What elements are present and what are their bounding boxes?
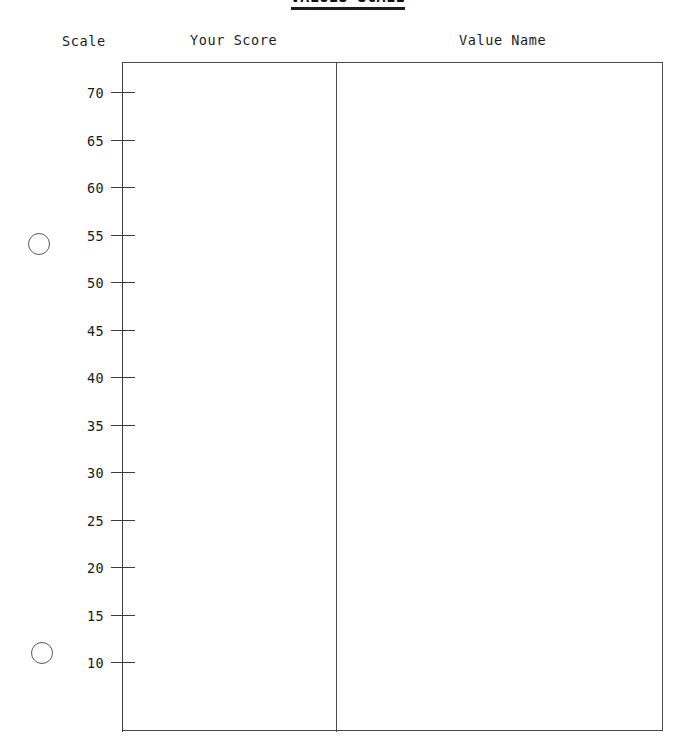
scale-tick-label-55: 55: [70, 228, 104, 244]
scale-tick-45: [111, 330, 135, 331]
scale-tick-25: [111, 520, 135, 521]
scale-tick-40: [111, 377, 135, 378]
document-title-container: VALUES SCALE: [0, 0, 696, 10]
scale-tick-label-15: 15: [70, 608, 104, 624]
value-name-entry-area[interactable]: [337, 63, 662, 730]
your-score-entry-area[interactable]: [123, 63, 335, 730]
scale-tick-label-60: 60: [70, 180, 104, 196]
scale-tick-55: [111, 235, 135, 236]
column-header-your-score: Your Score: [190, 32, 277, 48]
scale-tick-50: [111, 282, 135, 283]
page-title: VALUES SCALE: [291, 0, 405, 10]
scale-tick-10: [111, 662, 135, 663]
margin-circle-upper[interactable]: [28, 233, 50, 255]
scale-tick-70: [111, 92, 135, 93]
margin-circle-lower[interactable]: [31, 642, 53, 664]
scale-tick-35: [111, 425, 135, 426]
scale-tick-20: [111, 567, 135, 568]
scale-tick-label-25: 25: [70, 513, 104, 529]
worksheet-page: VALUES SCALE Scale Your Score Value Name…: [0, 0, 696, 752]
scale-tick-label-65: 65: [70, 133, 104, 149]
scale-tick-label-40: 40: [70, 370, 104, 386]
scale-tick-label-70: 70: [70, 85, 104, 101]
scale-tick-15: [111, 615, 135, 616]
scale-tick-30: [111, 472, 135, 473]
column-header-value-name: Value Name: [459, 32, 546, 48]
scale-tick-label-45: 45: [70, 323, 104, 339]
scale-tick-label-20: 20: [70, 560, 104, 576]
scale-tick-label-30: 30: [70, 465, 104, 481]
column-header-scale: Scale: [62, 33, 106, 49]
scale-tick-65: [111, 140, 135, 141]
scale-tick-60: [111, 187, 135, 188]
scale-tick-label-35: 35: [70, 418, 104, 434]
scale-tick-label-10: 10: [70, 655, 104, 671]
scale-tick-label-50: 50: [70, 275, 104, 291]
